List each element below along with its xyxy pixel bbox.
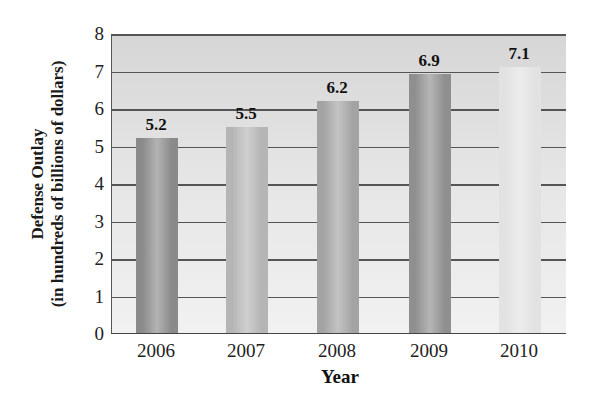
x-tick-label: 2008 — [307, 340, 367, 362]
x-axis-label: Year — [300, 366, 380, 388]
y-axis-label-line-2: (in hundreds of billions of dollars) — [48, 61, 68, 308]
y-tick-label: 1 — [86, 286, 104, 308]
bar-2010 — [499, 67, 541, 333]
y-tick-label: 8 — [86, 23, 104, 45]
x-tick-label: 2010 — [489, 340, 549, 362]
bar-2009 — [409, 74, 451, 333]
bar-2007 — [226, 127, 268, 333]
x-tick-label: 2009 — [399, 340, 459, 362]
x-tick-label: 2007 — [216, 340, 276, 362]
y-tick-label: 2 — [86, 248, 104, 270]
gridline — [112, 34, 566, 36]
y-axis-label: Defense Outlay (in hundreds of billions … — [26, 34, 70, 334]
data-label: 6.2 — [307, 78, 367, 98]
y-tick-label: 0 — [86, 323, 104, 345]
y-tick-label: 6 — [86, 98, 104, 120]
gridline — [112, 72, 566, 74]
data-label: 5.2 — [126, 115, 186, 135]
bar-2008 — [317, 101, 359, 334]
y-tick-label: 4 — [86, 173, 104, 195]
y-tick-label: 3 — [86, 211, 104, 233]
data-label: 7.1 — [489, 44, 549, 64]
x-tick-label: 2006 — [126, 340, 186, 362]
data-label: 5.5 — [216, 104, 276, 124]
data-label: 6.9 — [399, 51, 459, 71]
y-tick-label: 7 — [86, 61, 104, 83]
y-axis-label-line-1: Defense Outlay — [28, 61, 48, 308]
y-tick-label: 5 — [86, 136, 104, 158]
bar-2006 — [136, 138, 178, 333]
